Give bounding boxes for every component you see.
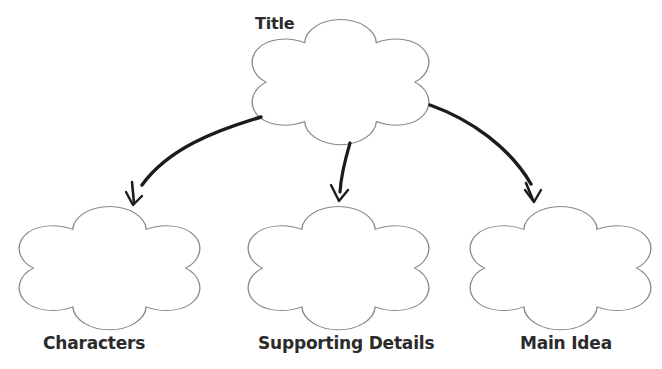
node-shape-characters[interactable]: [19, 207, 200, 330]
node-label-main-idea: Main Idea: [520, 333, 612, 353]
arrow-title-to-main-idea: [430, 105, 541, 202]
arrow-title-to-supporting-details: [331, 143, 350, 201]
diagram-svg: [0, 0, 662, 369]
node-shape-supporting-details[interactable]: [248, 207, 429, 330]
node-label-supporting-details: Supporting Details: [258, 333, 434, 353]
node-label-title: Title: [255, 14, 294, 33]
arrow-title-to-characters: [126, 117, 261, 205]
node-label-characters: Characters: [43, 333, 145, 353]
node-shape-title[interactable]: [252, 20, 429, 145]
graphic-organizer-canvas: Title Characters Supporting Details Main…: [0, 0, 662, 369]
node-shape-main-idea[interactable]: [470, 207, 651, 330]
